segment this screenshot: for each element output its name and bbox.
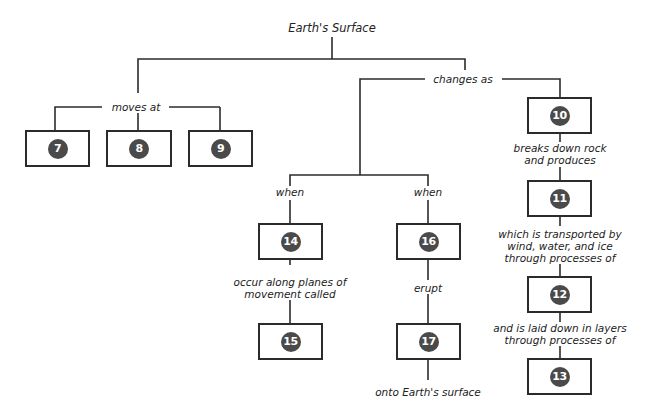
answer-box-11[interactable]: 11	[527, 180, 592, 217]
number-badge-11: 11	[550, 189, 570, 209]
link-laid-down: and is laid down in layers through proce…	[490, 322, 629, 346]
link-moves-at: moves at	[109, 101, 164, 113]
answer-box-14[interactable]: 14	[258, 223, 323, 260]
link-transported: which is transported by wind, water, and…	[495, 228, 625, 264]
answer-box-9[interactable]: 9	[188, 130, 253, 167]
answer-box-8[interactable]: 8	[106, 130, 172, 167]
link-transported-line2: wind, water, and ice	[498, 240, 622, 252]
link-changes-as: changes as	[430, 73, 495, 85]
answer-box-17[interactable]: 17	[396, 323, 461, 360]
link-onto-surface: onto Earth's surface	[372, 386, 484, 398]
link-occur-along-line2: movement called	[234, 288, 347, 300]
answer-box-15[interactable]: 15	[258, 323, 323, 360]
link-when-right: when	[411, 186, 445, 198]
number-badge-9: 9	[211, 139, 231, 159]
answer-box-16[interactable]: 16	[396, 223, 461, 260]
answer-box-12[interactable]: 12	[527, 276, 592, 313]
number-badge-13: 13	[550, 367, 570, 387]
link-erupt: erupt	[411, 282, 445, 294]
diagram-title: Earth's Surface	[285, 22, 378, 34]
link-breaks-line1: breaks down rock	[513, 142, 606, 154]
number-badge-16: 16	[419, 232, 439, 252]
link-occur-along-line1: occur along planes of	[234, 276, 347, 288]
link-transported-line3: through processes of	[498, 252, 622, 264]
link-laid-line2: through processes of	[493, 334, 626, 346]
number-badge-14: 14	[281, 232, 301, 252]
number-badge-8: 8	[129, 139, 149, 159]
link-transported-line1: which is transported by	[498, 228, 622, 240]
number-badge-17: 17	[419, 332, 439, 352]
link-when-left: when	[273, 186, 307, 198]
answer-box-13[interactable]: 13	[527, 358, 592, 395]
number-badge-15: 15	[281, 332, 301, 352]
link-laid-line1: and is laid down in layers	[493, 322, 626, 334]
link-breaks-line2: and produces	[513, 154, 606, 166]
number-badge-7: 7	[48, 139, 68, 159]
link-breaks-down: breaks down rock and produces	[510, 142, 609, 166]
number-badge-10: 10	[550, 106, 570, 126]
answer-box-10[interactable]: 10	[527, 97, 592, 134]
number-badge-12: 12	[550, 285, 570, 305]
link-occur-along: occur along planes of movement called	[231, 276, 350, 300]
answer-box-7[interactable]: 7	[25, 130, 90, 167]
